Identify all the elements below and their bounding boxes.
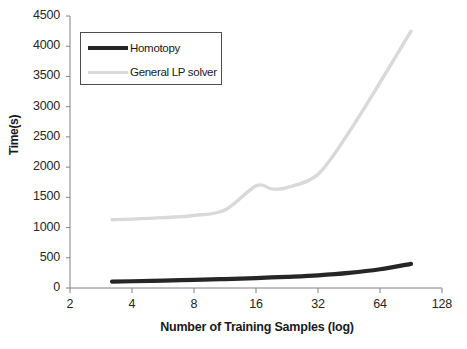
x-tick-label: 4 xyxy=(112,297,152,311)
y-tick-label: 4500 xyxy=(18,8,60,22)
y-tick-label: 3500 xyxy=(18,68,60,82)
legend-item-general-lp-solver: General LP solver xyxy=(81,61,221,83)
y-tick-label: 0 xyxy=(18,280,60,294)
y-tick-label: 4000 xyxy=(18,38,60,52)
legend-label-general-lp-solver: General LP solver xyxy=(130,66,217,78)
x-tick-label: 16 xyxy=(236,297,276,311)
x-tick-label: 2 xyxy=(50,297,90,311)
x-axis-title: Number of Training Samples (log) xyxy=(70,320,444,334)
x-tick-label: 32 xyxy=(298,297,338,311)
x-tick-label: 64 xyxy=(360,297,400,311)
x-tick-label: 128 xyxy=(422,297,462,311)
legend-item-homotopy: Homotopy xyxy=(81,37,221,59)
chart-legend: Homotopy General LP solver xyxy=(80,32,222,85)
legend-swatch-general-lp-solver xyxy=(88,71,128,74)
legend-swatch-homotopy xyxy=(88,46,128,50)
y-tick-label: 3000 xyxy=(18,99,60,113)
x-tick-label: 8 xyxy=(174,297,214,311)
y-tick-label: 500 xyxy=(18,250,60,264)
y-axis-title: Time(s) xyxy=(7,100,21,170)
y-tick-label: 1000 xyxy=(18,220,60,234)
chart-figure: 050010001500200025003000350040004500 248… xyxy=(0,0,467,349)
y-tick-label: 2000 xyxy=(18,159,60,173)
y-tick-label: 2500 xyxy=(18,129,60,143)
y-tick-label: 1500 xyxy=(18,189,60,203)
legend-label-homotopy: Homotopy xyxy=(130,42,180,54)
